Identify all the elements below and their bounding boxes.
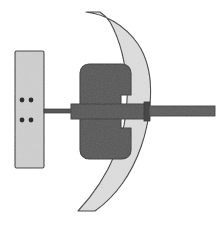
plate-hole-top-right [29, 98, 34, 103]
right-rod-part [149, 106, 215, 116]
main-shaft-bar-part [71, 104, 147, 119]
plate-hole-bottom-right [29, 118, 34, 123]
mounting-plate-body [15, 51, 44, 168]
technical-drawing-figure [0, 0, 224, 229]
plate-hole-bottom-left [20, 118, 25, 123]
plate-hole-top-left [20, 98, 25, 103]
figure-canvas [0, 0, 224, 229]
mounting-plate-part [15, 51, 44, 168]
thin-left-rod-part [44, 109, 72, 113]
